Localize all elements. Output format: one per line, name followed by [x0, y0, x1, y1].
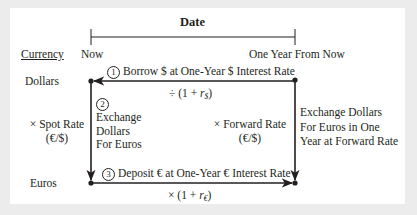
node-now-dollars: [88, 78, 93, 83]
forward-rate-line2: (€/$): [210, 131, 290, 145]
step-3-text: Deposit € at One-Year € Interest Rate: [118, 167, 291, 179]
note-line1: Exchange Dollars: [300, 105, 398, 120]
formula-prefix: ÷ (1 +: [169, 87, 200, 99]
timeline-end-label: One Year From Now: [249, 47, 345, 61]
currency-header: Currency: [21, 47, 64, 61]
node-year-euros: [292, 180, 297, 185]
forward-rate-label: × Forward Rate (€/$): [210, 117, 290, 145]
step-1-text: Borrow $ at One-Year $ Interest Rate: [123, 65, 295, 77]
timeline: [91, 29, 295, 45]
formula-prefix: × (1 +: [168, 189, 199, 201]
step-2-line3: For Euros: [96, 138, 142, 152]
step-2-line2: Dollars: [96, 125, 142, 139]
step-1-number-icon: 1: [107, 66, 120, 79]
spot-rate-line2: (€/$): [24, 131, 90, 145]
row-label-euros: Euros: [30, 176, 57, 190]
note-line2: For Euros in One: [300, 120, 398, 135]
forward-rate-line1: × Forward Rate: [210, 117, 290, 131]
step-3-number-icon: 3: [102, 168, 115, 181]
step-2-label: 2 Exchange Dollars For Euros: [96, 97, 142, 152]
step-1-label: 1Borrow $ at One-Year $ Interest Rate: [107, 64, 295, 79]
step-2-line1: Exchange: [96, 111, 142, 125]
step-2-number-icon: 2: [96, 98, 109, 111]
step-3-formula: × (1 + r€): [168, 188, 211, 206]
step-1-formula: ÷ (1 + r$): [169, 86, 212, 104]
node-now-euros: [88, 180, 93, 185]
formula-suffix: ): [207, 189, 211, 201]
note-line3: Year at Forward Rate: [300, 134, 398, 149]
timeline-start-label: Now: [81, 47, 103, 61]
row-label-dollars: Dollars: [25, 74, 59, 88]
diagram-title: Date: [180, 15, 205, 29]
spot-rate-line1: × Spot Rate: [24, 117, 90, 131]
formula-suffix: ): [208, 87, 212, 99]
forward-exchange-note: Exchange Dollars For Euros in One Year a…: [300, 105, 398, 149]
step-3-label: 3Deposit € at One-Year € Interest Rate: [102, 166, 291, 181]
spot-rate-label: × Spot Rate (€/$): [24, 117, 90, 145]
